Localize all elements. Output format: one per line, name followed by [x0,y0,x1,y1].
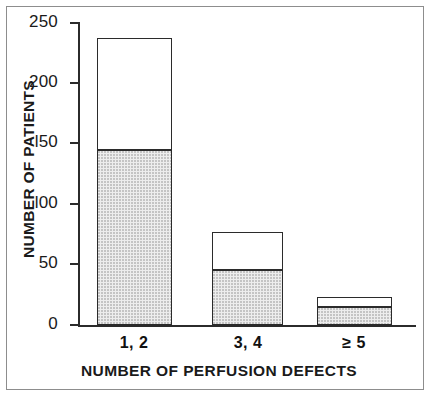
y-tick-label-100: l00 [35,193,58,213]
bar-segment-open-2 [317,297,392,307]
y-tick-label-50: 50 [39,253,58,273]
y-tick-0: 0 [70,324,78,326]
x-axis-line [78,325,416,327]
x-axis-title: NUMBER OF PERFUSION DEFECTS [0,362,438,380]
bar-segment-open-0 [97,38,172,151]
y-tick-label-200: 200 [29,72,58,92]
chart-figure: NUMBER OF PATIENTS 0 50 l00 l50 200 250 [0,0,438,402]
bar-segment-shaded-2 [317,307,392,325]
y-axis-line [78,22,80,325]
bar-group-2 [317,297,392,325]
y-tick-label-150: l50 [35,132,58,152]
x-tick-label-1: 3, 4 [234,334,263,352]
y-tick-label-250: 250 [29,12,58,32]
y-tick-200: 200 [70,82,78,84]
plot-area: 0 50 l00 l50 200 250 1, 2 [78,22,416,325]
bar-group-0 [97,38,172,325]
bar-group-1 [212,232,283,325]
y-tick-label-0: 0 [48,314,58,334]
y-tick-100: l00 [70,203,78,205]
bar-segment-shaded-0 [97,150,172,325]
bar-segment-open-1 [212,232,283,271]
y-tick-150: l50 [70,142,78,144]
y-tick-250: 250 [70,22,78,24]
bar-segment-shaded-1 [212,270,283,325]
y-tick-50: 50 [70,263,78,265]
x-tick-label-0: 1, 2 [120,334,149,352]
x-tick-label-2: ≥ 5 [342,334,366,352]
